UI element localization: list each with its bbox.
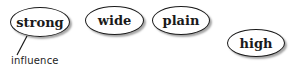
annotation-influence: influence bbox=[11, 55, 59, 66]
node-strong: strong bbox=[10, 7, 70, 37]
node-label: plain bbox=[163, 13, 200, 28]
node-label: strong bbox=[16, 15, 63, 30]
node-plain: plain bbox=[152, 6, 210, 35]
node-high: high bbox=[227, 29, 285, 57]
node-label: high bbox=[240, 36, 273, 51]
node-wide: wide bbox=[85, 6, 144, 35]
node-label: wide bbox=[98, 13, 132, 28]
